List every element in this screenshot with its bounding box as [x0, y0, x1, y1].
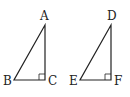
- vertex-label-f: F: [114, 74, 122, 88]
- right-angle-marker-c: [39, 74, 45, 80]
- vertex-label-a: A: [39, 9, 49, 23]
- vertex-label-c: C: [48, 74, 57, 88]
- triangle-abc-outline: [14, 25, 45, 80]
- triangles-diagram: A B C D E F: [0, 0, 130, 97]
- triangle-abc: A B C: [3, 9, 57, 88]
- vertex-label-e: E: [69, 74, 78, 88]
- right-angle-marker-f: [105, 74, 111, 80]
- triangle-def-outline: [80, 25, 111, 80]
- vertex-label-d: D: [107, 9, 117, 23]
- vertex-label-b: B: [3, 74, 12, 88]
- triangle-def: D E F: [69, 9, 122, 88]
